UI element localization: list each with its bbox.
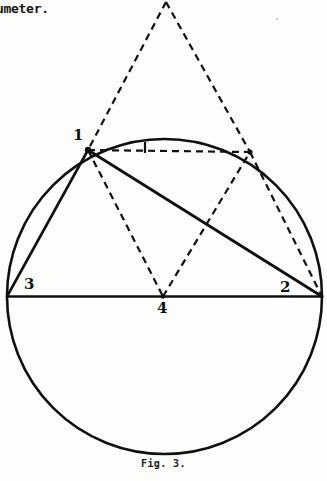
geometric-figure-drawing (0, 0, 327, 481)
vertex-label-3: 3 (24, 277, 34, 292)
chord-1-2 (88, 150, 322, 297)
figure-caption: Fig. 3. (0, 458, 327, 469)
vertex-dot-1 (85, 147, 91, 153)
vertex-label-2: 2 (280, 280, 290, 295)
vertex-label-4: 4 (157, 301, 167, 316)
chord-1-3 (7, 150, 88, 297)
vertex-dot-mirror (247, 149, 252, 154)
chord-4-to-mirror (163, 152, 250, 297)
figure-page: umeter. 1 2 3 4 Fig. 3. (0, 0, 327, 481)
vertex-label-1: 1 (73, 128, 83, 143)
apex-to-point-1 (88, 2, 166, 150)
apex-to-mirror-point (166, 2, 250, 152)
